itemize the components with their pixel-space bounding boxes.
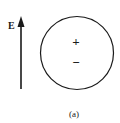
electric-field-arrow-icon: [18, 16, 25, 89]
sphere-outline: [41, 17, 114, 90]
diagram-canvas: E + − (a): [0, 0, 120, 123]
positive-charge-label: +: [72, 34, 79, 49]
field-label: E: [8, 20, 15, 31]
negative-charge-label: −: [72, 55, 79, 70]
figure-caption: (a): [69, 109, 79, 119]
